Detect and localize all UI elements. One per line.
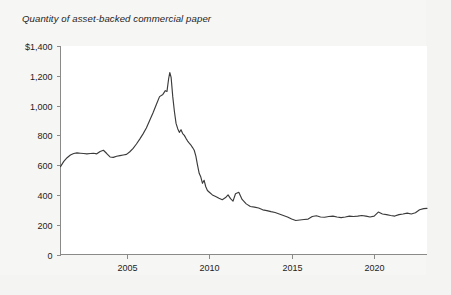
x-tick-label: 2020 <box>364 263 384 273</box>
y-tick-label: 0 <box>47 251 52 261</box>
x-tick-label: 2015 <box>282 263 302 273</box>
y-tick-label: 800 <box>37 131 52 141</box>
y-tick-label: 1,000 <box>30 102 53 112</box>
y-tick-label: 1,200 <box>30 72 53 82</box>
x-tick-label: 2010 <box>199 263 219 273</box>
y-axis-ticks: 02004006008001,0001,200$1,400 <box>25 42 61 261</box>
chart-figure: Quantity of asset-backed commercial pape… <box>0 0 451 295</box>
y-tick-label: $1,400 <box>25 42 53 52</box>
y-tick-label: 200 <box>37 221 52 231</box>
x-tick-label: 2005 <box>117 263 137 273</box>
plot-area-background <box>60 46 427 255</box>
x-axis-ticks: 2005201020152020 <box>117 255 384 273</box>
y-tick-label: 400 <box>37 191 52 201</box>
line-chart-svg: 02004006008001,0001,200$1,400 2005201020… <box>0 0 451 295</box>
chart-canvas: 02004006008001,0001,200$1,400 2005201020… <box>0 0 451 295</box>
y-tick-label: 600 <box>37 161 52 171</box>
